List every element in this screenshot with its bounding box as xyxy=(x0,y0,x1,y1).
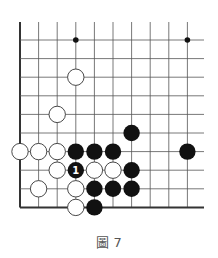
black-stone: 1 xyxy=(68,162,84,178)
white-stone xyxy=(49,143,65,159)
white-stone xyxy=(30,181,46,197)
black-stone-disc xyxy=(179,143,195,159)
black-stone xyxy=(86,199,102,215)
white-stone xyxy=(68,199,84,215)
black-stone-disc xyxy=(123,181,139,197)
white-stone xyxy=(105,162,121,178)
white-stone-disc xyxy=(68,199,84,215)
go-board: 1 xyxy=(0,0,218,230)
white-stone-disc xyxy=(68,181,84,197)
black-stone-disc xyxy=(123,162,139,178)
white-stone xyxy=(68,69,84,85)
black-stone xyxy=(105,143,121,159)
white-stone-disc xyxy=(49,162,65,178)
black-stone-disc xyxy=(105,143,121,159)
black-stone xyxy=(86,181,102,197)
black-stone-disc xyxy=(86,181,102,197)
white-stone-disc xyxy=(49,106,65,122)
white-stone xyxy=(49,106,65,122)
move-number-label: 1 xyxy=(72,165,79,176)
white-stone-disc xyxy=(105,162,121,178)
black-stone-disc xyxy=(86,199,102,215)
figure-caption: 圖 7 xyxy=(0,232,218,251)
white-stone xyxy=(12,143,28,159)
black-stone xyxy=(123,181,139,197)
white-stone xyxy=(86,162,102,178)
white-stone-disc xyxy=(86,162,102,178)
black-stone-disc xyxy=(86,143,102,159)
black-stone-disc xyxy=(105,181,121,197)
black-stone xyxy=(179,143,195,159)
black-stone xyxy=(123,125,139,141)
black-stone xyxy=(86,143,102,159)
white-stone-disc xyxy=(49,143,65,159)
white-stone xyxy=(68,181,84,197)
stones: 1 xyxy=(12,69,196,216)
board-grid xyxy=(20,22,204,207)
white-stone xyxy=(49,162,65,178)
white-stone-disc xyxy=(68,69,84,85)
black-stone xyxy=(105,181,121,197)
star-point xyxy=(73,37,79,43)
white-stone-disc xyxy=(30,143,46,159)
white-stone xyxy=(30,143,46,159)
black-stone xyxy=(123,162,139,178)
star-point xyxy=(185,37,191,43)
black-stone-disc xyxy=(68,143,84,159)
white-stone-disc xyxy=(12,143,28,159)
black-stone-disc xyxy=(123,125,139,141)
white-stone-disc xyxy=(30,181,46,197)
black-stone xyxy=(68,143,84,159)
